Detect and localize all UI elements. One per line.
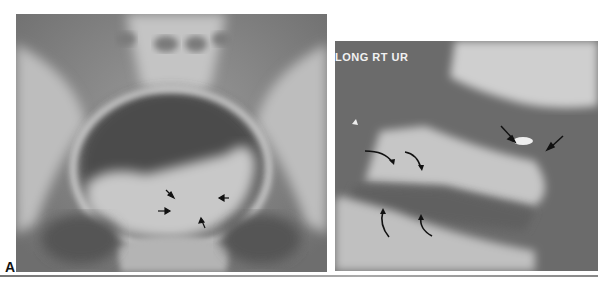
- ultrasound-image: LONG RT UR: [335, 41, 598, 271]
- pelvic-radiograph-image: [16, 14, 327, 272]
- bottom-rule: [0, 275, 598, 277]
- panel-label: A: [5, 259, 15, 275]
- ultrasound-label: LONG RT UR: [335, 51, 408, 63]
- ultrasound-drawing: [335, 41, 598, 271]
- radiograph-drawing: [16, 14, 327, 272]
